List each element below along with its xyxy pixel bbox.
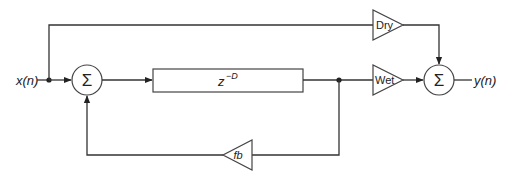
fb-gain-label: fb [233,149,242,161]
sigma-icon: Σ [82,71,93,90]
comb-filter-diagram: x(n) Σ z −D fb Dry Wet [0,0,506,180]
wire-feedback-out [87,96,223,155]
wire-dry-to-sum [403,25,439,64]
output-label: y(n) [473,73,496,88]
wet-gain-label: Wet [375,74,394,86]
dry-gain-block: Dry [373,10,403,40]
delay-label-exponent: −D [226,71,238,81]
fb-gain-block: fb [223,140,252,170]
sum-output-node: Σ [424,65,454,95]
sum-input-node: Σ [72,65,102,95]
sigma-icon: Σ [434,71,445,90]
delay-label-base: z [217,74,225,89]
input-label: x(n) [15,73,38,88]
delay-block: z −D [153,69,303,92]
wet-gain-block: Wet [373,65,403,95]
dry-gain-label: Dry [376,19,394,31]
